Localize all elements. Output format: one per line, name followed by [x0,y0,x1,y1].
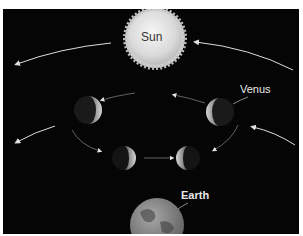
arrow-top-right [196,42,293,70]
venus-orbit-left [72,130,100,151]
venus-phase-lower-left [112,146,136,170]
arrow-mid-left [17,126,55,142]
venus-phase-upper-left [74,96,102,124]
venus-orbit-upper-left [102,93,135,100]
earth [130,198,184,234]
earth-pointer [178,203,188,209]
earth-label: Earth [181,189,209,201]
venus-orbit-right [214,125,238,150]
arrow-top-left [17,43,111,64]
venus-phase-upper-right [206,98,234,126]
venus-orbit-upper-right [174,95,205,103]
venus-phase-lower-right [176,146,200,170]
arrow-mid-right [253,127,295,145]
sun-label: Sun [141,30,162,44]
venus-label: Venus [240,83,271,95]
venus-pointer [233,97,248,104]
